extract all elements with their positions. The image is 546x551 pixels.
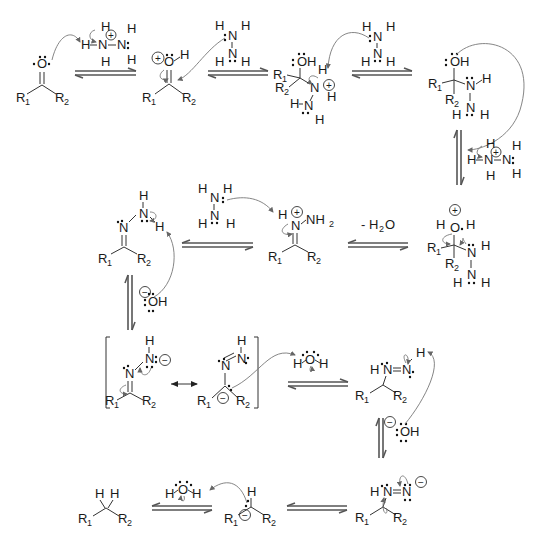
svg-text:N: N bbox=[467, 267, 476, 282]
svg-text:2: 2 bbox=[402, 517, 407, 527]
hydrazinium-reagent-1: H H N H + N H H bbox=[81, 19, 136, 69]
svg-text:+: + bbox=[155, 53, 161, 64]
svg-text:1: 1 bbox=[206, 400, 211, 410]
tetrahedral-hydrazinium: OH R1 R2 H N + H H N H bbox=[273, 53, 336, 127]
svg-text:N: N bbox=[484, 152, 493, 167]
svg-text:H: H bbox=[436, 217, 445, 232]
svg-text:N: N bbox=[291, 218, 300, 233]
svg-text:R: R bbox=[142, 90, 151, 105]
svg-text:R: R bbox=[393, 510, 402, 525]
svg-text:1: 1 bbox=[25, 97, 30, 107]
svg-text:N: N bbox=[373, 46, 382, 61]
svg-text:N: N bbox=[228, 46, 237, 61]
svg-text:N: N bbox=[402, 484, 411, 499]
svg-text:R: R bbox=[307, 249, 316, 264]
equilibrium-arrow bbox=[287, 503, 347, 513]
svg-text:H: H bbox=[416, 345, 425, 360]
hydrazine-reagent-2: H H N N H H bbox=[361, 19, 395, 69]
svg-text:O: O bbox=[164, 54, 174, 69]
svg-text:H: H bbox=[327, 89, 336, 104]
equilibrium-arrow bbox=[182, 240, 253, 250]
svg-text:H: H bbox=[386, 54, 395, 69]
svg-text:H: H bbox=[290, 96, 299, 111]
svg-text:H: H bbox=[453, 275, 462, 290]
svg-text:H: H bbox=[362, 19, 371, 34]
svg-text:R: R bbox=[268, 249, 277, 264]
svg-text:H: H bbox=[101, 54, 110, 69]
svg-text:H: H bbox=[486, 168, 495, 183]
svg-text:N: N bbox=[502, 152, 511, 167]
svg-text:R: R bbox=[224, 511, 233, 526]
svg-text:H: H bbox=[241, 18, 250, 33]
svg-text:R: R bbox=[355, 510, 364, 525]
svg-text:2: 2 bbox=[245, 400, 250, 410]
svg-text:OH: OH bbox=[400, 424, 420, 439]
svg-text:N: N bbox=[228, 28, 237, 43]
svg-text:H: H bbox=[198, 216, 207, 231]
hydrazone-anion-resonance-a: H N − N R1 R2 bbox=[105, 333, 171, 410]
equilibrium-arrow bbox=[348, 240, 408, 250]
svg-text:2: 2 bbox=[64, 97, 69, 107]
svg-text:H: H bbox=[480, 107, 489, 122]
svg-text:H: H bbox=[223, 181, 232, 196]
svg-text:O: O bbox=[178, 482, 188, 497]
svg-text:H: H bbox=[482, 71, 491, 86]
svg-text:R: R bbox=[137, 251, 146, 266]
svg-text:N: N bbox=[383, 484, 392, 499]
svg-text:N: N bbox=[383, 362, 392, 377]
svg-text:H: H bbox=[241, 54, 250, 69]
hydrazine-reagent-1: H H N N H H bbox=[215, 18, 250, 69]
svg-text:N: N bbox=[402, 362, 411, 377]
svg-text:H: H bbox=[361, 54, 370, 69]
carbanion: H − R1 R2 bbox=[224, 484, 276, 528]
svg-text:2: 2 bbox=[191, 97, 196, 107]
svg-text:OH: OH bbox=[148, 294, 168, 309]
svg-text:1: 1 bbox=[107, 258, 112, 268]
curly-arrow bbox=[154, 232, 174, 297]
svg-text:−: − bbox=[242, 510, 248, 521]
svg-text:H: H bbox=[315, 112, 324, 127]
iminium: H + N NH 2 R1 R2 bbox=[268, 207, 334, 267]
svg-text:2: 2 bbox=[271, 518, 276, 528]
svg-text:N: N bbox=[119, 220, 128, 235]
hydrazone-anion-resonance-b: H N N − R1 R2 bbox=[197, 333, 250, 410]
hydroxide-1: − OH bbox=[140, 287, 168, 313]
svg-text:H: H bbox=[145, 333, 154, 348]
svg-text:R: R bbox=[118, 511, 127, 526]
equilibrium-arrow-vertical bbox=[125, 275, 135, 330]
alkane: H H R1 R2 bbox=[78, 486, 132, 528]
svg-text:H: H bbox=[81, 37, 90, 52]
svg-text:H: H bbox=[237, 333, 246, 348]
water-reagent-2: H O H bbox=[165, 481, 201, 501]
svg-text:N: N bbox=[210, 190, 219, 205]
svg-text:H: H bbox=[139, 188, 148, 203]
svg-text:R: R bbox=[197, 393, 206, 408]
svg-text:N: N bbox=[221, 358, 230, 373]
svg-text:2: 2 bbox=[127, 518, 132, 528]
svg-text:H: H bbox=[386, 19, 395, 34]
hydrazone-protonated: H N N H R1 R2 bbox=[98, 188, 164, 268]
svg-text:H: H bbox=[278, 207, 287, 222]
water-reagent-1: H O H bbox=[293, 351, 328, 372]
svg-text:H: H bbox=[198, 181, 207, 196]
curly-arrow bbox=[210, 483, 247, 503]
svg-text:2: 2 bbox=[146, 258, 151, 268]
svg-text:N: N bbox=[304, 98, 313, 113]
svg-text:O: O bbox=[385, 217, 395, 232]
svg-text:2: 2 bbox=[454, 263, 459, 273]
svg-text:N: N bbox=[466, 100, 475, 115]
svg-text:+: + bbox=[493, 147, 499, 158]
svg-text:H: H bbox=[155, 219, 164, 234]
svg-text:+: + bbox=[294, 207, 300, 218]
svg-text:2: 2 bbox=[402, 395, 407, 405]
svg-text:N: N bbox=[125, 366, 134, 381]
svg-text:2: 2 bbox=[329, 219, 334, 229]
svg-text:H: H bbox=[95, 486, 104, 501]
svg-text:R: R bbox=[78, 511, 87, 526]
svg-text:H: H bbox=[319, 356, 328, 371]
svg-text:R: R bbox=[142, 393, 151, 408]
svg-text:H: H bbox=[452, 107, 461, 122]
svg-text:H: H bbox=[293, 356, 302, 371]
svg-text:NH: NH bbox=[306, 212, 325, 227]
svg-text:R: R bbox=[98, 251, 107, 266]
